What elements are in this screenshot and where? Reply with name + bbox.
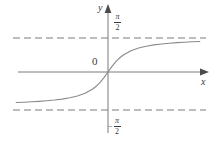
pi-half-negative-numerator: π (114, 117, 120, 125)
y-axis-arrowhead (105, 4, 112, 13)
pi-half-positive-numerator: π (114, 13, 120, 21)
origin-label: 0 (92, 56, 98, 67)
pi-half-positive-denominator: 2 (115, 24, 121, 32)
pi-half-negative-denominator: 2 (114, 128, 120, 136)
pi-half-negative-sign: − (108, 123, 113, 131)
asymptote-label-negative-pi-half: − π 2 (108, 117, 121, 136)
pi-half-positive-fraction: π 2 (114, 13, 121, 32)
x-axis-arrowhead (200, 69, 209, 76)
asymptote-label-positive-pi-half: π 2 (113, 13, 121, 32)
y-axis-label: y (98, 3, 102, 13)
pi-half-negative-fraction: π 2 (114, 117, 121, 136)
x-axis-label: x (201, 77, 205, 87)
arctan-figure: y x 0 π 2 − π 2 (0, 0, 216, 144)
